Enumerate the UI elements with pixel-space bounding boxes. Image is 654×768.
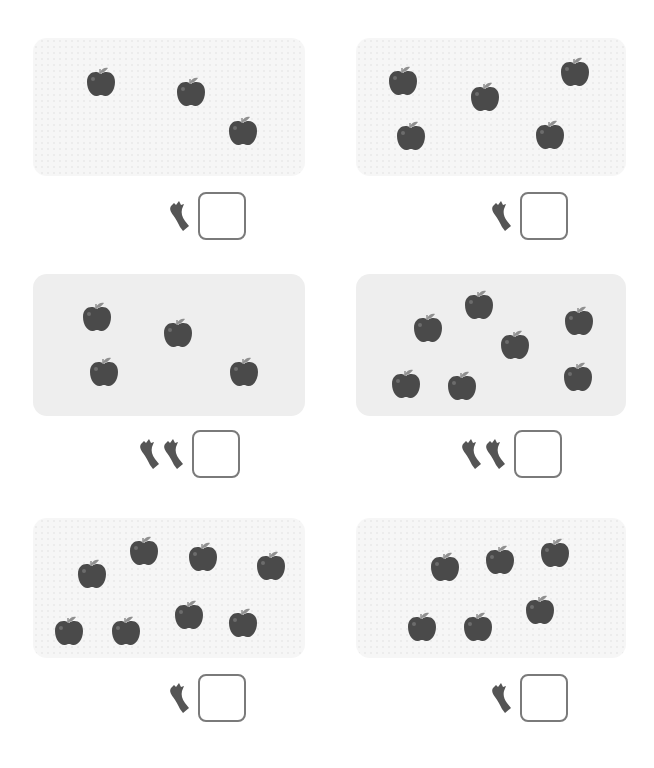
apple-icon — [75, 557, 109, 591]
apple-core-icon — [168, 200, 190, 232]
apple-icon — [227, 355, 261, 389]
apple-core-group — [168, 682, 190, 714]
apple-icon — [561, 360, 595, 394]
answer-box[interactable] — [520, 192, 568, 240]
apple-icon — [84, 65, 118, 99]
apple-icon — [411, 311, 445, 345]
apple-icon — [109, 614, 143, 648]
answer-box[interactable] — [514, 430, 562, 478]
apple-core-icon — [168, 682, 190, 714]
answer-row — [168, 672, 246, 724]
apple-core-group — [138, 438, 184, 470]
apple-icon — [445, 369, 479, 403]
apple-icon — [172, 598, 206, 632]
apple-icon — [386, 64, 420, 98]
answer-box[interactable] — [192, 430, 240, 478]
apple-core-group — [490, 682, 512, 714]
apple-icon — [254, 549, 288, 583]
apple-core-icon — [162, 438, 184, 470]
apple-icon — [405, 610, 439, 644]
apple-core-group — [460, 438, 506, 470]
apple-icon — [483, 543, 517, 577]
apple-icon — [127, 534, 161, 568]
apple-icon — [462, 288, 496, 322]
apple-icon — [538, 536, 572, 570]
apple-core-group — [490, 200, 512, 232]
apple-icon — [186, 540, 220, 574]
apple-icon — [161, 316, 195, 350]
answer-box[interactable] — [198, 192, 246, 240]
apple-icon — [468, 80, 502, 114]
apple-icon — [226, 114, 260, 148]
apple-icon — [389, 367, 423, 401]
apple-core-icon — [490, 682, 512, 714]
apple-core-icon — [460, 438, 482, 470]
apple-icon — [87, 355, 121, 389]
apple-core-icon — [138, 438, 160, 470]
answer-box[interactable] — [198, 674, 246, 722]
apple-panel — [33, 38, 305, 176]
apple-icon — [174, 75, 208, 109]
apple-icon — [533, 118, 567, 152]
apple-core-icon — [484, 438, 506, 470]
apple-core-icon — [490, 200, 512, 232]
apple-icon — [52, 614, 86, 648]
answer-row — [460, 428, 562, 480]
apple-icon — [498, 328, 532, 362]
apple-icon — [394, 119, 428, 153]
answer-row — [168, 190, 246, 242]
apple-icon — [558, 55, 592, 89]
answer-row — [490, 672, 568, 724]
answer-row — [490, 190, 568, 242]
answer-row — [138, 428, 240, 480]
apple-icon — [461, 610, 495, 644]
apple-icon — [80, 300, 114, 334]
apple-icon — [226, 606, 260, 640]
answer-box[interactable] — [520, 674, 568, 722]
apple-icon — [562, 304, 596, 338]
apple-icon — [523, 593, 557, 627]
apple-core-group — [168, 200, 190, 232]
apple-icon — [428, 550, 462, 584]
